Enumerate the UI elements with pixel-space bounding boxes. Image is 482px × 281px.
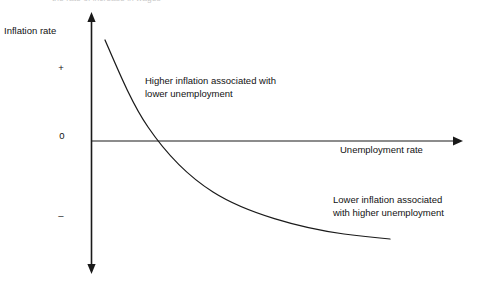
annotation-lower-line-2: with higher unemployment xyxy=(333,207,444,220)
phillips-curve-figure: the rate of increase in wages Inflation … xyxy=(0,0,482,281)
y-tick-label-negative: – xyxy=(53,210,69,221)
annotation-upper-line-1: Higher inflation associated with xyxy=(145,75,276,88)
x-axis-title: Unemployment rate xyxy=(340,144,423,155)
y-tick-label-positive: + xyxy=(53,62,69,73)
y-axis-arrow-up-icon xyxy=(87,12,95,22)
annotation-upper: Higher inflation associated with lower u… xyxy=(145,75,276,100)
annotation-lower: Lower inflation associated with higher u… xyxy=(333,194,444,219)
y-axis xyxy=(87,12,95,274)
y-tick-label-zero: 0 xyxy=(54,130,70,141)
annotation-upper-line-2: lower unemployment xyxy=(145,88,276,101)
annotation-lower-line-1: Lower inflation associated xyxy=(333,194,444,207)
x-axis-arrow-right-icon xyxy=(453,137,463,146)
y-axis-title: Inflation rate xyxy=(4,25,56,36)
y-axis-arrow-down-icon xyxy=(87,264,95,274)
plot-area xyxy=(0,0,482,281)
